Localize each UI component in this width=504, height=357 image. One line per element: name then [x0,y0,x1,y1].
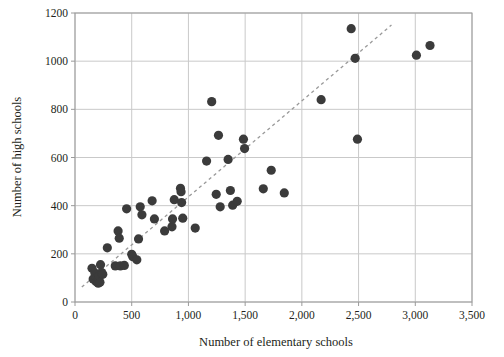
data-point [136,202,145,211]
data-point [226,186,235,195]
data-point [178,214,187,223]
data-point [353,135,362,144]
data-point [212,190,221,199]
data-point [115,234,124,243]
y-tick-label: 0 [62,296,68,308]
data-point [148,196,157,205]
data-point [176,187,185,196]
data-point [239,135,248,144]
x-tick-label: 1,500 [232,309,258,322]
trendline [82,25,392,287]
x-tick-label: 500 [123,309,141,321]
data-point [214,131,223,140]
x-axis-title: Number of elementary schools [199,335,353,349]
data-point [259,184,268,193]
y-axis-title: Number of high schools [10,97,24,218]
data-point [224,155,233,164]
data-point [167,222,176,231]
data-point [96,260,105,269]
data-point [280,188,289,197]
y-tick-label: 1000 [45,55,68,67]
data-point [98,270,107,279]
trendline-dashed [82,25,392,287]
data-point [134,234,143,243]
scatter-chart: 05001,0001,5002,0002,5003,0003,500 02004… [0,0,504,357]
y-tick-label: 400 [51,200,69,212]
data-point [95,278,104,287]
data-point [317,95,326,104]
x-tick-labels: 05001,0001,5002,0002,5003,0003,500 [72,309,485,322]
data-point [216,202,225,211]
data-points-group [87,24,434,288]
data-point [233,197,242,206]
data-point [207,97,216,106]
y-tick-label: 800 [51,103,69,115]
tick-marks-group [71,13,472,306]
data-point [202,157,211,166]
y-tick-label: 200 [51,248,69,260]
x-tick-label: 3,000 [402,309,428,322]
data-point [150,214,159,223]
data-point [120,261,129,270]
plot-svg: 05001,0001,5002,0002,5003,0003,500 02004… [0,0,504,357]
data-point [137,210,146,219]
x-tick-label: 0 [72,309,78,321]
y-tick-label: 1200 [45,7,68,19]
x-tick-label: 1,000 [175,309,201,322]
data-point [347,24,356,33]
data-point [412,51,421,60]
y-tick-label: 600 [51,152,69,164]
data-point [267,166,276,175]
data-point [103,243,112,252]
data-point [351,54,360,63]
data-point [425,41,434,50]
data-point [240,144,249,153]
data-point [168,214,177,223]
data-point [191,223,200,232]
x-tick-label: 2,500 [346,309,372,322]
x-tick-label: 2,000 [289,309,315,322]
x-tick-label: 3,500 [459,309,485,322]
y-tick-labels: 020040060080010001200 [45,7,68,308]
data-point [132,255,141,264]
data-point [122,204,131,213]
data-point [177,198,186,207]
